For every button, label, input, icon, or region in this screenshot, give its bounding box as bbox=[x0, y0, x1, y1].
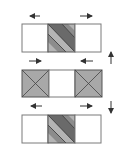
blank-tile bbox=[49, 70, 75, 97]
cross-tile bbox=[22, 70, 49, 97]
cross-tile bbox=[75, 70, 102, 97]
row-3 bbox=[22, 106, 101, 143]
row-2 bbox=[22, 61, 102, 97]
striped-tile bbox=[48, 24, 75, 52]
blank-tile bbox=[75, 24, 101, 52]
blank-tile bbox=[22, 115, 48, 143]
row-1 bbox=[22, 16, 101, 52]
striped-tile bbox=[48, 115, 75, 143]
blank-tile bbox=[22, 24, 48, 52]
tile-rearrangement-diagram bbox=[0, 0, 119, 151]
blank-tile bbox=[75, 115, 101, 143]
